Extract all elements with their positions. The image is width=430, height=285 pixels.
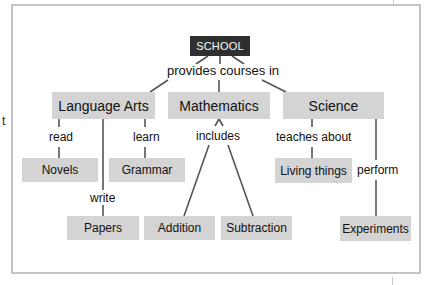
node-living-things: Living things bbox=[275, 158, 352, 183]
node-mathematics: Mathematics bbox=[168, 92, 270, 119]
link-label-provides-courses-in: provides courses in bbox=[166, 64, 280, 78]
node-novels: Novels bbox=[22, 158, 98, 182]
link-label-includes: includes bbox=[195, 129, 241, 143]
node-label: Novels bbox=[42, 163, 79, 177]
node-label: Science bbox=[309, 98, 359, 114]
node-language-arts: Language Arts bbox=[52, 92, 155, 119]
node-papers: Papers bbox=[67, 216, 139, 240]
link-line bbox=[215, 119, 219, 126]
node-label: Subtraction bbox=[226, 221, 287, 235]
link-line bbox=[184, 145, 209, 216]
link-label-learn: learn bbox=[132, 130, 161, 144]
node-experiments: Experiments bbox=[340, 216, 411, 241]
link-line bbox=[150, 80, 168, 92]
node-label: Living things bbox=[280, 164, 347, 178]
link-label-read: read bbox=[48, 130, 74, 144]
node-label: Papers bbox=[84, 221, 122, 235]
link-label-teaches-about: teaches about bbox=[275, 130, 352, 144]
node-school: SCHOOL bbox=[190, 36, 250, 56]
link-line bbox=[219, 119, 223, 126]
node-subtraction: Subtraction bbox=[221, 216, 292, 240]
link-line bbox=[262, 80, 286, 92]
link-label-write: write bbox=[89, 191, 116, 205]
node-label: Mathematics bbox=[179, 98, 258, 114]
node-label: Addition bbox=[158, 221, 201, 235]
node-science: Science bbox=[283, 92, 384, 119]
node-grammar: Grammar bbox=[109, 158, 185, 182]
node-label: Experiments bbox=[342, 222, 409, 236]
link-line bbox=[228, 145, 253, 216]
link-label-perform: perform bbox=[356, 163, 399, 177]
node-label: SCHOOL bbox=[196, 40, 244, 52]
node-label: Grammar bbox=[122, 163, 173, 177]
node-addition: Addition bbox=[144, 216, 215, 240]
node-label: Language Arts bbox=[58, 98, 148, 114]
